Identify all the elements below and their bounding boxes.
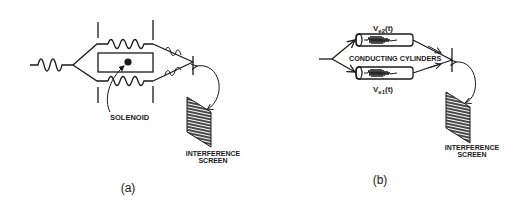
- solenoid-label: SOLENOID: [110, 113, 150, 122]
- screen-label-line1: INTERFERENCE: [186, 150, 241, 157]
- screen-label-line1: INTERFERENCE: [445, 144, 500, 151]
- potential-v1-label: Ve1(t): [373, 85, 393, 95]
- panel-b: Ve2(t) Ve1(t) CONDUCTING CYLINDERS INTER…: [319, 24, 500, 187]
- solenoid-dot-icon: [124, 58, 131, 65]
- conducting-cylinders-label: CONDUCTING CYLINDERS: [349, 54, 441, 63]
- panel-a-caption: (a): [121, 181, 136, 195]
- upper-beam-path: [73, 40, 193, 66]
- panel-b-caption: (b): [373, 173, 388, 187]
- incoming-wave-icon: [30, 59, 73, 71]
- interference-screen-icon: [187, 97, 211, 147]
- screen-label-line2: SCREEN: [198, 157, 227, 164]
- panel-a: SOLENOID INTERFERENCE SCREEN (a): [30, 20, 241, 195]
- upper-conducting-cylinder: [356, 34, 413, 46]
- interference-screen-icon: [446, 92, 470, 143]
- lower-conducting-cylinder: [356, 67, 413, 79]
- aharonov-bohm-diagram: SOLENOID INTERFERENCE SCREEN (a): [0, 0, 526, 205]
- projection-arrow: [456, 62, 476, 103]
- lower-beam-path: [73, 62, 193, 86]
- potential-v2-label: Ve2(t): [373, 24, 393, 34]
- screen-label-line2: SCREEN: [457, 151, 486, 158]
- projection-arrow: [197, 66, 219, 110]
- solenoid-pointer: [107, 66, 124, 112]
